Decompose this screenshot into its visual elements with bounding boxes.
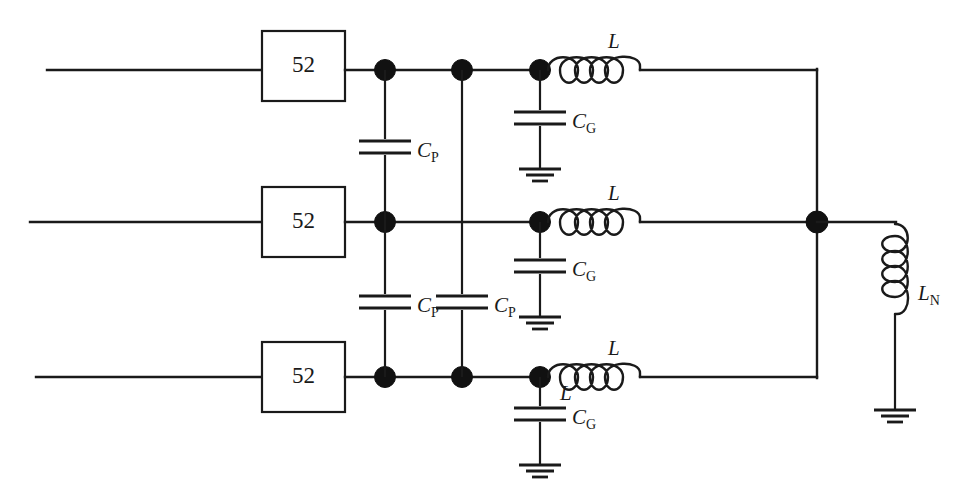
circuit-schematic-canvas: 52 L CG xyxy=(0,0,955,498)
ground-capacitor-label-phase-c: CG xyxy=(572,405,596,432)
phase-capacitor-label-ab: CP xyxy=(417,138,439,165)
circuit-diagram: 52 L CG xyxy=(0,0,955,498)
earth-ground-phase-b xyxy=(519,317,561,329)
ground-capacitor-label-phase-a: CG xyxy=(572,109,596,136)
ground-capacitor-label-phase-b: CG xyxy=(572,257,596,284)
ground-capacitor-phase-c xyxy=(514,377,566,477)
ground-capacitor-phase-a xyxy=(514,70,566,181)
earth-ground-phase-c xyxy=(519,465,561,477)
ground-capacitor-phase-b xyxy=(514,222,566,329)
phase-capacitor-bc xyxy=(359,222,411,377)
phase-capacitor-ab xyxy=(359,70,411,222)
line-inductor-label-phase-c: L xyxy=(607,336,620,360)
phase-capacitor-label-bc: CP xyxy=(417,293,439,320)
line-inductor-label-phase-c-extra: L xyxy=(559,381,572,405)
breaker-label-phase-b: 52 xyxy=(292,208,315,233)
neutral-inductor-label: LN xyxy=(917,281,940,308)
breaker-label-phase-c: 52 xyxy=(292,363,315,388)
earth-ground-phase-a xyxy=(519,169,561,181)
breaker-label-phase-a: 52 xyxy=(292,52,315,77)
phase-c-group: 52 L L CG xyxy=(36,336,817,477)
line-inductor-phase-a xyxy=(548,57,817,83)
phase-capacitor-label-ac: CP xyxy=(494,293,516,320)
earth-ground-neutral xyxy=(874,410,916,422)
line-inductor-label-phase-b: L xyxy=(607,181,620,205)
line-inductor-phase-c xyxy=(548,364,817,390)
phase-capacitor-ac xyxy=(436,70,488,377)
neutral-bus-group xyxy=(806,69,896,378)
line-inductor-phase-b xyxy=(548,209,817,235)
neutral-inductor-LN xyxy=(874,224,916,422)
line-inductor-label-phase-a: L xyxy=(607,29,620,53)
